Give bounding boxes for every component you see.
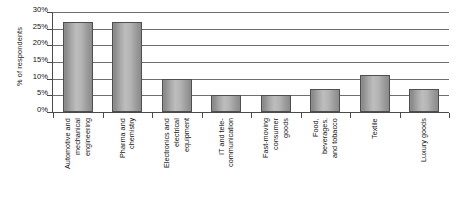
x-axis-category-label-line: Fast-moving bbox=[261, 118, 271, 204]
x-axis-category-label: Food,beverages,and tobacco bbox=[311, 118, 340, 204]
x-axis-category-label: Luxury goods bbox=[419, 118, 429, 204]
x-axis-category-label-line: beverages, bbox=[320, 118, 330, 204]
y-axis-tick-label: 20% bbox=[18, 39, 48, 47]
y-axis-tickmark bbox=[47, 95, 52, 96]
y-axis-tickmark bbox=[47, 12, 52, 13]
y-axis-tick-label: 25% bbox=[18, 23, 48, 31]
bar bbox=[63, 22, 93, 112]
bar bbox=[162, 79, 192, 112]
y-axis-tick-label: 10% bbox=[18, 73, 48, 81]
gridline bbox=[53, 12, 449, 13]
bar bbox=[261, 95, 291, 112]
x-axis-category-label-line: IT and tele- bbox=[217, 118, 227, 204]
x-axis-category-labels: Automotive andmechanicalengineeringPharm… bbox=[53, 118, 449, 206]
x-axis-category-label-line: chemistry bbox=[127, 118, 137, 204]
y-axis-tickmark bbox=[47, 45, 52, 46]
x-axis-category-label: Textile bbox=[370, 118, 380, 204]
x-axis-category-label-line: engineering bbox=[83, 118, 93, 204]
x-axis-category-label: Pharma andchemistry bbox=[118, 118, 137, 204]
bar bbox=[112, 22, 142, 112]
x-axis-category-label-line: Food, bbox=[311, 118, 321, 204]
y-axis-tick-labels: 30%25%20%15%10%5%0% bbox=[18, 10, 48, 112]
x-axis-category-label-line: and tobacco bbox=[330, 118, 340, 204]
x-axis-category-label-line: electrical bbox=[172, 118, 182, 204]
x-axis-category-label-line: Textile bbox=[370, 118, 380, 204]
bar bbox=[360, 75, 390, 112]
x-axis-category-label: Electronics andelectricalequipment bbox=[162, 118, 191, 204]
x-axis-category-label-line: consumer bbox=[271, 118, 281, 204]
bar bbox=[211, 95, 241, 112]
y-axis-tick-label: 0% bbox=[18, 106, 48, 114]
bar-chart: % of respondents 30%25%20%15%10%5%0% Aut… bbox=[0, 0, 457, 206]
x-axis-category-label-line: Pharma and bbox=[118, 118, 128, 204]
y-axis-tickmark bbox=[47, 29, 52, 30]
x-axis-category-label: IT and tele-communication bbox=[217, 118, 236, 204]
y-axis-tick-label: 5% bbox=[18, 89, 48, 97]
y-axis-tick-label: 15% bbox=[18, 56, 48, 64]
plot-area bbox=[53, 12, 449, 112]
y-axis-tickmark bbox=[47, 62, 52, 63]
x-axis-category-label-line: communication bbox=[226, 118, 236, 204]
bar bbox=[409, 89, 439, 112]
x-axis-tickmark bbox=[449, 113, 450, 118]
x-axis-category-label-line: mechanical bbox=[73, 118, 83, 204]
x-axis-category-label-line: Automotive and bbox=[63, 118, 73, 204]
bar bbox=[310, 89, 340, 112]
y-axis-tickmark bbox=[47, 79, 52, 80]
x-axis-category-label-line: equipment bbox=[182, 118, 192, 204]
x-axis-category-label-line: Electronics and bbox=[162, 118, 172, 204]
x-axis-category-label-line: goods bbox=[281, 118, 291, 204]
x-axis-category-label-line: Luxury goods bbox=[419, 118, 429, 204]
x-axis-category-label: Automotive andmechanicalengineering bbox=[63, 118, 92, 204]
y-axis-tickmark bbox=[47, 112, 52, 113]
y-axis-tick-label: 30% bbox=[18, 6, 48, 14]
x-axis-category-label: Fast-movingconsumergoods bbox=[261, 118, 290, 204]
